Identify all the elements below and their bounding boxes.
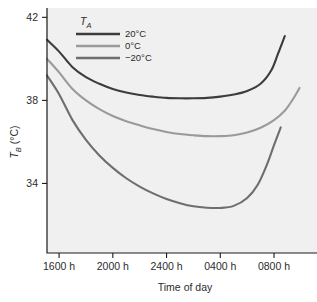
figure-container: 423834 1600 h2000 h2400 h0400 h0800 h TB… xyxy=(0,0,317,302)
y-axis-ticks xyxy=(42,17,47,183)
y-tick-label: 42 xyxy=(26,11,38,23)
y-tick-label: 34 xyxy=(26,177,38,189)
x-axis-tick-labels: 1600 h2000 h2400 h0400 h0800 h xyxy=(43,260,290,272)
x-tick-label: 2400 h xyxy=(150,260,182,272)
svg-text:TB (°C): TB (°C) xyxy=(8,125,23,158)
legend-label-2: −20°C xyxy=(125,52,152,63)
x-axis-ticks xyxy=(59,253,274,258)
y-tick-label: 38 xyxy=(26,94,38,106)
temperature-line-chart: 423834 1600 h2000 h2400 h0400 h0800 h TB… xyxy=(0,0,317,302)
x-tick-label: 2000 h xyxy=(97,260,129,272)
legend-label-1: 0°C xyxy=(125,40,141,51)
x-tick-label: 1600 h xyxy=(43,260,75,272)
legend-label-0: 20°C xyxy=(125,28,146,39)
y-axis-tick-labels: 423834 xyxy=(26,11,38,189)
legend-title-subscript: A xyxy=(85,21,91,30)
x-tick-label: 0800 h xyxy=(258,260,290,272)
x-tick-label: 0400 h xyxy=(204,260,236,272)
y-axis-title: TB (°C) xyxy=(8,125,23,158)
y-axis-title-unit: (°C) xyxy=(8,125,20,147)
x-axis-title: Time of day xyxy=(158,281,213,293)
legend-items: 20°C0°C−20°C xyxy=(76,28,152,63)
